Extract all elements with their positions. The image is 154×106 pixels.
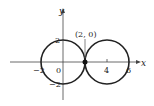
x-tick-label-neg2: −2 [33,66,45,75]
point-label: (2, 0) [75,30,97,39]
y-axis-label: y [58,6,65,16]
polar-graph: y x (2, 0) 2 −2 −2 0 4 6 [0,0,154,106]
x-tick-label-0: 0 [56,66,61,75]
x-tick-label-6: 6 [126,66,131,75]
y-tick-label-neg2: −2 [49,80,61,89]
y-tick-label-2: 2 [55,36,60,45]
x-tick-label-4: 4 [104,66,109,75]
point-marker [83,60,88,65]
x-axis-label: x [141,58,146,68]
